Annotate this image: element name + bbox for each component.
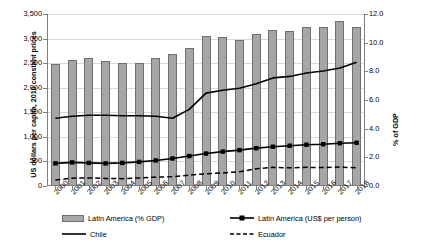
y-axis-right-tick-label: 12.0 bbox=[369, 10, 409, 18]
y-axis-left-tick-mark bbox=[43, 137, 47, 138]
data-point-marker bbox=[254, 146, 258, 150]
x-axis-tick-mark bbox=[122, 186, 123, 190]
x-axis-tick-mark bbox=[156, 186, 157, 190]
x-axis-tick-mark bbox=[139, 186, 140, 190]
x-axis-tick-mark bbox=[340, 186, 341, 190]
y-axis-right-tick-label: 8.0 bbox=[369, 67, 409, 75]
legend-item-label: Latin America (US$ per person) bbox=[258, 214, 362, 223]
data-point-marker bbox=[187, 154, 191, 158]
x-axis-tick-mark bbox=[106, 186, 107, 190]
legend-swatch-line-icon bbox=[62, 229, 86, 239]
y-axis-left-tick-mark bbox=[43, 112, 47, 113]
data-point-marker bbox=[271, 144, 275, 148]
y-axis-left-tick-label: 0 bbox=[2, 182, 42, 190]
x-axis-tick-mark bbox=[239, 186, 240, 190]
y-axis-left-tick-mark bbox=[43, 39, 47, 40]
y-axis-left-tick-mark bbox=[43, 186, 47, 187]
y-axis-right-tick-label: 4.0 bbox=[369, 125, 409, 133]
y-axis-right-tick-mark bbox=[364, 43, 368, 44]
x-axis-tick-mark bbox=[223, 186, 224, 190]
data-point-marker bbox=[70, 160, 74, 164]
y-axis-right-tick-label: 6.0 bbox=[369, 96, 409, 104]
legend-item[interactable]: Latin America (US$ per person) bbox=[230, 212, 362, 224]
legend-swatch-bar-icon bbox=[62, 215, 84, 222]
y-axis-left-tick-label: 3,500 bbox=[2, 10, 42, 18]
data-point-marker bbox=[53, 161, 57, 165]
x-axis-tick-mark bbox=[89, 186, 90, 190]
y-axis-right-tick-mark bbox=[364, 71, 368, 72]
data-point-marker bbox=[354, 141, 358, 145]
data-point-marker bbox=[221, 149, 225, 153]
y-axis-left-tick-label: 1,500 bbox=[2, 108, 42, 116]
x-axis-tick-mark bbox=[290, 186, 291, 190]
data-point-marker bbox=[204, 151, 208, 155]
x-axis-tick-mark bbox=[206, 186, 207, 190]
y-axis-left-tick-label: 2,500 bbox=[2, 59, 42, 67]
y-axis-right-tick-label: 10.0 bbox=[369, 39, 409, 47]
y-axis-left-tick-mark bbox=[43, 88, 47, 89]
chart-container: US dollars per capita, 2010 constant pri… bbox=[0, 0, 422, 248]
data-point-marker bbox=[287, 144, 291, 148]
data-point-marker bbox=[87, 161, 91, 165]
legend-item-label: Chile bbox=[90, 230, 107, 239]
x-axis-tick-mark bbox=[273, 186, 274, 190]
series-line-ecuador bbox=[55, 167, 356, 180]
data-point-marker bbox=[137, 160, 141, 164]
x-axis-tick-mark bbox=[256, 186, 257, 190]
legend-swatch-dashed-line-icon bbox=[230, 229, 254, 239]
data-point-marker bbox=[120, 161, 124, 165]
y-axis-right-tick-mark bbox=[364, 129, 368, 130]
x-axis-tick-mark bbox=[55, 186, 56, 190]
y-axis-left-tick-mark bbox=[43, 63, 47, 64]
y-axis-left-tick-label: 1,000 bbox=[2, 133, 42, 141]
series-line-chile bbox=[55, 62, 356, 118]
x-axis-tick-mark bbox=[189, 186, 190, 190]
y-axis-left-tick-label: 500 bbox=[2, 157, 42, 165]
y-axis-right-tick-mark bbox=[364, 100, 368, 101]
legend-item[interactable]: Latin America (% GDP) bbox=[62, 212, 164, 224]
line-series-overlay bbox=[47, 14, 365, 186]
data-point-marker bbox=[237, 148, 241, 152]
data-point-marker bbox=[321, 142, 325, 146]
y-axis-left-tick-mark bbox=[43, 14, 47, 15]
legend-item-label: Latin America (% GDP) bbox=[88, 214, 164, 223]
y-axis-left-tick-label: 3,000 bbox=[2, 35, 42, 43]
y-axis-right-tick-mark bbox=[364, 157, 368, 158]
legend-item-label: Ecuador bbox=[258, 230, 286, 239]
y-axis-left-tick-mark bbox=[43, 161, 47, 162]
data-point-marker bbox=[304, 143, 308, 147]
x-axis-tick-mark bbox=[357, 186, 358, 190]
legend-item[interactable]: Chile bbox=[62, 228, 107, 240]
x-axis-tick-mark bbox=[323, 186, 324, 190]
y-axis-right-tick-label: 0.0 bbox=[369, 182, 409, 190]
y-axis-right-tick-label: 2.0 bbox=[369, 153, 409, 161]
y-axis-right-tick-mark bbox=[364, 14, 368, 15]
data-point-marker bbox=[170, 156, 174, 160]
x-axis-tick-mark bbox=[306, 186, 307, 190]
legend-item[interactable]: Ecuador bbox=[230, 228, 286, 240]
legend-swatch-line-marker-icon bbox=[230, 213, 254, 223]
data-point-marker bbox=[154, 158, 158, 162]
y-axis-left-tick-label: 2,000 bbox=[2, 84, 42, 92]
chart-legend: Latin America (% GDP)Latin America (US$ … bbox=[62, 212, 382, 246]
data-point-marker bbox=[103, 161, 107, 165]
x-axis-tick-mark bbox=[173, 186, 174, 190]
data-point-marker bbox=[338, 141, 342, 145]
x-axis-tick-mark bbox=[72, 186, 73, 190]
